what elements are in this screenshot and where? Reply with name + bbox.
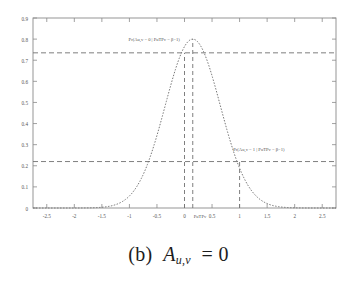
figure-b: 00.10.20.30.40.50.60.70.80.9 -2.5-2-1.5-… bbox=[0, 0, 357, 295]
caption-subscript: u,v bbox=[176, 253, 191, 267]
caption-variable: A bbox=[163, 243, 176, 265]
y-tick-label: 0.9 bbox=[22, 16, 29, 22]
y-tick-label: 0.8 bbox=[22, 37, 29, 43]
y-tick-label: 0.7 bbox=[22, 58, 29, 64]
y-tick-label: 0.5 bbox=[22, 100, 29, 106]
x-tick-label: -0.5 bbox=[153, 213, 162, 219]
x-tick-label: -2 bbox=[72, 213, 77, 219]
caption-relation: = 0 bbox=[202, 243, 229, 265]
upper-probability-annotation: Pr(Au,v = 0 | PuTPv = β−1) bbox=[129, 37, 181, 43]
x-tick-labels: -2.5-2-1.5-1-0.500.511.522.5 bbox=[43, 213, 326, 219]
y-tick-labels: 00.10.20.30.40.50.60.70.80.9 bbox=[22, 16, 29, 212]
x-tick-label: 1 bbox=[238, 213, 241, 219]
x-tick-label: 0 bbox=[183, 213, 186, 219]
y-tick-label: 0.4 bbox=[22, 121, 29, 127]
y-tick-label: 0.1 bbox=[22, 184, 29, 190]
y-tick-label: 0 bbox=[25, 206, 28, 212]
x-tick-label: -1.5 bbox=[98, 213, 107, 219]
x-tick-label: 1.5 bbox=[264, 213, 271, 219]
figure-caption: (b) Au,v = 0 bbox=[0, 243, 357, 268]
x-tick-label: 2.5 bbox=[319, 213, 326, 219]
lower-probability-annotation: Pr(Au,v = 1 | PuTPv = β−1) bbox=[233, 147, 285, 153]
annotation-labels: Pr(Au,v = 0 | PuTPv = β−1)Pr(Au,v = 1 | … bbox=[129, 37, 285, 219]
y-tick-label: 0.3 bbox=[22, 142, 29, 148]
gaussian-plot: 00.10.20.30.40.50.60.70.80.9 -2.5-2-1.5-… bbox=[0, 0, 357, 240]
y-tick-label: 0.2 bbox=[22, 163, 29, 169]
plot-area: 00.10.20.30.40.50.60.70.80.9 -2.5-2-1.5-… bbox=[0, 0, 357, 240]
y-tick-label: 0.6 bbox=[22, 79, 29, 85]
guide-lines bbox=[33, 39, 336, 208]
x-tick-label: -2.5 bbox=[43, 213, 52, 219]
x-tick-label: -1 bbox=[127, 213, 132, 219]
x-tick-label: 0.5 bbox=[209, 213, 216, 219]
caption-prefix: (b) bbox=[128, 243, 152, 265]
axis-marker-annotation: PuTPv bbox=[194, 214, 207, 219]
x-tick-label: 2 bbox=[293, 213, 296, 219]
